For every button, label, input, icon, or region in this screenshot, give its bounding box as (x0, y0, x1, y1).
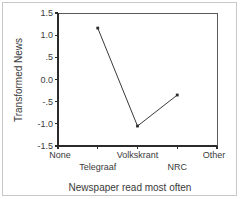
x-tick-label-volkskrant: Volkskrant (117, 150, 159, 160)
data-point-marker (96, 27, 99, 30)
data-point-marker (176, 94, 179, 97)
x-tick-label-nrc: NRC (168, 162, 188, 172)
y-tick-label: 0.0 (40, 75, 53, 85)
data-series-line (98, 28, 178, 126)
x-axis-tick-labels: None Telegraaf Volkskrant NRC Other (49, 150, 225, 172)
x-tick-label-none: None (49, 150, 71, 160)
y-tick-label: -1.0 (37, 119, 53, 129)
x-tick-label-telegraaf: Telegraaf (79, 162, 117, 172)
y-tick-label: -.5 (42, 97, 53, 107)
y-tick-label: 1.5 (40, 8, 53, 18)
y-tick-label: .5 (45, 52, 53, 62)
y-axis-tick-labels: 1.5 1.0 .5 0.0 -.5 -1.0 -1.5 (37, 8, 53, 151)
line-chart-plot: 1.5 1.0 .5 0.0 -.5 -1.0 -1.5 None Telegr… (0, 0, 240, 199)
x-axis-title: Newspaper read most often (69, 182, 192, 193)
data-point-marker (136, 125, 139, 128)
y-axis-title: Transformed News (13, 38, 24, 122)
chart-figure: 1.5 1.0 .5 0.0 -.5 -1.0 -1.5 None Telegr… (0, 0, 240, 199)
data-point-markers (96, 27, 178, 128)
y-tick-label: 1.0 (40, 30, 53, 40)
chart-screenshot: 1.5 1.0 .5 0.0 -.5 -1.0 -1.5 None Telegr… (0, 0, 240, 199)
x-tick-label-other: Other (203, 150, 226, 160)
